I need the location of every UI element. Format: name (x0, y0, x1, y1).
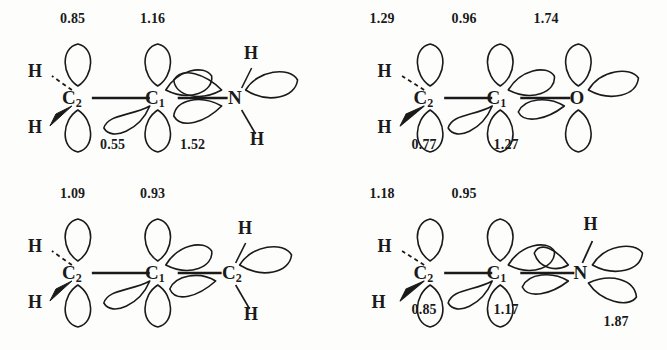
atom-label-left: C2 (62, 263, 82, 284)
value-above-2: 0.95 (452, 187, 477, 201)
value-above-2: 0.93 (140, 187, 165, 201)
orbital-lobe-n-small-upleft (534, 247, 568, 268)
hydrogen-left-upper: H (28, 62, 42, 80)
hydrogen-left-lower: H (372, 293, 386, 311)
hydrogen-left-upper: H (28, 237, 42, 255)
orbital-panel-bottom-right: 1.18 0.95 0.85 1.17 1.87 H H H C2 C1 N (334, 175, 667, 350)
orbital-panel-top-left: 0.85 1.16 0.55 1.52 H H H H C2 C1 N (0, 0, 334, 175)
orbital-lobe-n-upright (246, 72, 298, 98)
orbital-lobe-c1-upright (508, 70, 554, 95)
bond-n-h (582, 241, 592, 263)
orbital-lobe-o-down (565, 110, 591, 152)
orbital-lobe-c2r-upright (240, 247, 292, 273)
hydrogen-left-lower: H (28, 293, 42, 311)
orbital-lobe-c1-down (145, 110, 170, 152)
orbital-lobe-c1-up (145, 219, 170, 261)
value-below-1: 0.85 (412, 303, 437, 317)
atom-label-left: C2 (414, 263, 434, 284)
value-below-2: 1.17 (494, 303, 519, 317)
panel-top-left-drawing (0, 0, 334, 175)
orbital-lobe-c2-up (65, 219, 90, 261)
orbital-panel-top-right: 1.29 0.96 1.74 0.77 1.27 H H C2 C1 O (334, 0, 667, 175)
orbital-diagram-grid: 0.85 1.16 0.55 1.52 H H H H C2 C1 N (0, 0, 667, 350)
atom-label-right: C2 (222, 263, 242, 284)
orbital-lobe-n-downright (588, 278, 636, 303)
orbital-lobe-c1-downleft (104, 281, 150, 309)
value-below-2: 1.52 (180, 138, 205, 152)
atom-label-center: C1 (145, 88, 165, 109)
orbital-lobe-n-upleft (174, 73, 222, 97)
hydrogen-right-lower: H (244, 305, 258, 323)
value-above-1: 1.18 (370, 187, 395, 201)
atom-label-right: O (570, 88, 585, 109)
orbital-lobe-c1-upright (166, 70, 212, 95)
hydrogen-right-lower: H (250, 130, 264, 148)
orbital-lobe-c2-up (417, 219, 443, 261)
value-above-2: 0.96 (452, 12, 477, 26)
hydrogen-left-lower: H (378, 118, 392, 136)
value-below-1: 0.55 (100, 138, 125, 152)
orbital-lobe-c1-up (487, 44, 513, 86)
orbital-lobe-c2-down (65, 110, 90, 152)
orbital-lobe-o-upright (588, 71, 638, 96)
orbital-lobe-c1-up (145, 44, 170, 86)
hydrogen-right-upper: H (238, 219, 252, 237)
panel-bottom-left-drawing (0, 175, 334, 350)
orbital-lobe-n-downleft (174, 100, 222, 124)
atom-label-left: C2 (62, 88, 82, 109)
hydrogen-left-lower: H (28, 118, 42, 136)
atom-label-center: C1 (145, 263, 165, 284)
value-above-3: 1.74 (534, 12, 559, 26)
value-above-1: 0.85 (60, 12, 85, 26)
atom-label-right: N (574, 263, 588, 284)
atom-label-right: N (228, 88, 242, 109)
atom-label-center: C1 (487, 88, 507, 109)
atom-label-center: C1 (487, 263, 507, 284)
value-above-1: 1.09 (60, 187, 85, 201)
orbital-lobe-c2-up (417, 44, 443, 86)
orbital-lobe-o-up (565, 44, 591, 86)
value-above-2: 1.16 (140, 12, 165, 26)
value-below-2: 1.27 (494, 138, 519, 152)
orbital-lobe-c2r-downleft (170, 275, 216, 296)
value-above-1: 1.29 (370, 12, 395, 26)
hydrogen-right-upper: H (584, 215, 598, 233)
orbital-lobe-c1-up (487, 219, 513, 261)
orbital-lobe-n-upright (592, 246, 642, 271)
orbital-lobe-c1-downleft (448, 281, 492, 309)
orbital-lobe-o-downleft (518, 100, 564, 119)
orbital-lobe-c2-up (65, 44, 90, 86)
orbital-lobe-c2-down (65, 285, 90, 327)
orbital-lobe-n-downleft (522, 275, 568, 294)
orbital-lobe-c1-downleft (104, 106, 150, 134)
orbital-lobe-c1-down (145, 285, 170, 327)
hydrogen-right-upper: H (244, 44, 258, 62)
atom-label-left: C2 (414, 88, 434, 109)
value-below-1: 0.77 (412, 138, 437, 152)
orbital-panel-bottom-left: 1.09 0.93 H H H H C2 C1 C2 (0, 175, 334, 350)
hydrogen-left-upper: H (378, 62, 392, 80)
hydrogen-left-upper: H (378, 237, 392, 255)
orbital-lobe-c1-upright (166, 245, 212, 270)
value-below-3: 1.87 (604, 315, 629, 329)
orbital-lobe-c1-downleft (448, 106, 492, 134)
